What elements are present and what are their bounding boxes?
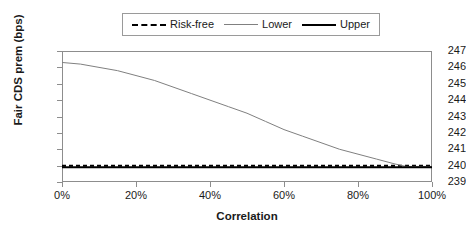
series-line-lower [62,62,432,166]
x-tick-mark [432,182,433,187]
x-tick-label: 60% [254,190,314,201]
y-tick-mark [57,133,62,134]
x-tick-mark [284,182,285,187]
x-tick-label: 80% [328,190,388,201]
legend-label-upper: Upper [340,19,370,30]
legend-label-risk-free: Risk-free [170,19,214,30]
y-tick-label: 240 [414,160,466,171]
y-tick-label: 243 [414,111,466,122]
legend-entry-upper: Upper [302,19,370,30]
legend-entry-lower: Lower [224,19,292,30]
legend-entry-risk-free: Risk-free [132,19,214,30]
x-tick-mark [358,182,359,187]
y-tick-mark [57,166,62,167]
y-axis-title: Fair CDS prem (bps) [12,0,24,140]
thin-line-swatch-icon [224,21,258,29]
x-tick-label: 0% [32,190,92,201]
y-tick-label: 242 [414,127,466,138]
y-tick-label: 247 [414,45,466,56]
legend-label-lower: Lower [262,19,292,30]
chart-legend: Risk-free Lower Upper [122,13,380,36]
y-tick-label: 244 [414,94,466,105]
dashed-line-swatch-icon [132,21,166,29]
y-tick-mark [57,117,62,118]
y-tick-mark [57,84,62,85]
y-tick-mark [57,149,62,150]
x-tick-mark [136,182,137,187]
thick-line-swatch-icon [302,21,336,29]
x-tick-mark [62,182,63,187]
y-tick-mark [57,100,62,101]
y-tick-mark [57,67,62,68]
cds-premium-line-chart: Risk-free Lower Upper 247246245244243242… [0,0,466,238]
x-tick-label: 100% [402,190,462,201]
y-tick-label: 239 [414,176,466,187]
y-tick-label: 245 [414,78,466,89]
x-axis-title: Correlation [62,210,432,222]
x-tick-mark [210,182,211,187]
y-tick-label: 241 [414,143,466,154]
x-tick-label: 40% [180,190,240,201]
y-tick-label: 246 [414,61,466,72]
x-tick-label: 20% [106,190,166,201]
plot-series-layer [62,51,432,182]
y-tick-mark [57,51,62,52]
